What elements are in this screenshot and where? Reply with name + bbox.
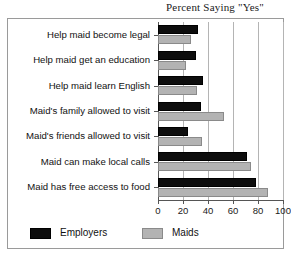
legend-label: Maids bbox=[172, 227, 199, 238]
bar-employers-0 bbox=[158, 25, 198, 34]
category-label: Maid's family allowed to visit bbox=[2, 105, 150, 116]
bar-maids-1 bbox=[158, 61, 186, 70]
bar-maids-4 bbox=[158, 137, 202, 146]
employers-swatch bbox=[30, 228, 51, 239]
category-label: Maid has free access to food bbox=[2, 181, 150, 192]
x-axis-line bbox=[158, 200, 284, 201]
category-label: Maid's friends allowed to visit bbox=[2, 130, 150, 141]
gridline-100 bbox=[283, 22, 284, 200]
x-axis-tick-label: 0 bbox=[145, 205, 171, 216]
chart-title: Percent Saying "Yes" bbox=[140, 1, 290, 13]
chart-legend: EmployersMaids bbox=[30, 226, 260, 244]
bar-employers-6 bbox=[158, 178, 256, 187]
bar-maids-3 bbox=[158, 112, 224, 121]
bar-employers-1 bbox=[158, 51, 196, 60]
x-axis-tick-label: 40 bbox=[195, 205, 221, 216]
gridline-60 bbox=[233, 22, 234, 200]
bar-employers-2 bbox=[158, 76, 203, 85]
maids-swatch bbox=[142, 228, 163, 239]
gridline-80 bbox=[258, 22, 259, 200]
category-label: Help maid get an education bbox=[2, 54, 150, 65]
x-axis-tick-label: 80 bbox=[245, 205, 271, 216]
x-axis-tick-label: 60 bbox=[220, 205, 246, 216]
legend-label: Employers bbox=[60, 227, 107, 238]
x-axis-tick-label: 20 bbox=[170, 205, 196, 216]
bar-employers-5 bbox=[158, 152, 247, 161]
bar-maids-0 bbox=[158, 35, 191, 44]
bar-maids-5 bbox=[158, 162, 251, 171]
category-label: Help maid become legal bbox=[2, 29, 150, 40]
x-axis-tick-label: 100 bbox=[270, 205, 291, 216]
bar-maids-6 bbox=[158, 188, 268, 197]
bar-employers-4 bbox=[158, 127, 188, 136]
category-label: Maid can make local calls bbox=[2, 156, 150, 167]
category-label: Help maid learn English bbox=[2, 80, 150, 91]
bar-maids-2 bbox=[158, 86, 197, 95]
bar-employers-3 bbox=[158, 102, 201, 111]
chart-page: Percent Saying "Yes" 020406080100Help ma… bbox=[0, 0, 291, 273]
